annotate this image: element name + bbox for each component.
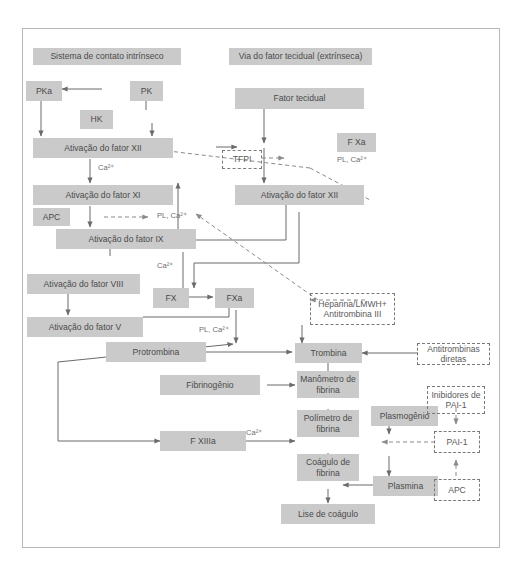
node-trombina: Trombina	[295, 343, 362, 363]
node-ativacao-fator-ix: Ativação do fator IX	[56, 229, 196, 249]
node-polimetro-de-fibrina-label: Polímetro de fibrina	[300, 413, 356, 434]
node-pka: PKa	[26, 81, 62, 101]
header-extrinsic-pathway: Via do fator tecidual (extrínseca)	[229, 48, 372, 65]
annotation-ca-ix-fxa: Ca²⁺	[157, 261, 173, 270]
node-fibrinogenio-label: Fibrinogênio	[186, 380, 233, 390]
node-fator-tecidual: Fator tecidual	[235, 88, 364, 109]
node-apc-left: APC	[33, 208, 70, 226]
node-fxa-label: FXa	[227, 293, 243, 303]
node-apc-right-label: APC	[448, 485, 466, 495]
node-pka-label: PKa	[36, 86, 52, 96]
node-pai-1: PAI-1	[434, 431, 480, 453]
node-ativacao-fator-v-label: Ativação do fator V	[49, 322, 122, 332]
node-f-xa: F Xa	[337, 133, 376, 152]
node-pk-label: PK	[141, 86, 152, 96]
annotation-ca-xiiia: Ca²⁺	[246, 428, 262, 437]
annotation-plca-fxa-right: PL, Ca²⁺	[337, 155, 367, 164]
node-heparina-antitrombina: Heparina/LMWH+ Antitrombina III	[310, 293, 395, 325]
header-intrinsic-label: Sistema de contato intrínseco	[50, 51, 163, 61]
annotation-ca-ix-fxa-label: Ca²⁺	[157, 261, 173, 270]
annotation-plca-xi-ix: PL, Ca²⁺	[157, 211, 187, 220]
annotation-plca-fxa-trombina-label: PL, Ca²⁺	[199, 325, 229, 334]
node-protrombina-label: Protrombina	[133, 347, 180, 357]
node-apc-left-label: APC	[43, 212, 61, 222]
node-lise-de-coagulo-label: Lise de coágulo	[298, 509, 358, 519]
node-ativacao-fator-xi-label: Ativação do fator XI	[66, 190, 141, 200]
annotation-ca-xiiia-label: Ca²⁺	[246, 428, 262, 437]
node-plasmina-label: Plasmina	[388, 481, 423, 491]
node-heparina-antitrombina-label: Heparina/LMWH+ Antitrombina III	[314, 299, 391, 320]
node-ativacao-fator-ix-label: Ativação do fator IX	[89, 234, 164, 244]
node-manometro-de-fibrina: Manômetro de fibrina	[297, 371, 359, 398]
node-ativacao-fator-xii-intrinseco-label: Ativação do fator XII	[64, 143, 141, 153]
node-inibidores-de-pai-1: Inibidores de PAI-1	[427, 386, 485, 414]
node-tfpi-label: TFPI	[233, 154, 252, 164]
node-f-xa-label: F Xa	[347, 137, 365, 147]
node-ativacao-fator-xi: Ativação do fator XI	[33, 185, 173, 205]
node-fator-tecidual-label: Fator tecidual	[273, 93, 325, 103]
node-hk: HK	[80, 110, 113, 129]
annotation-plca-fxa-trombina: PL, Ca²⁺	[199, 325, 229, 334]
node-manometro-de-fibrina-label: Manômetro de fibrina	[300, 374, 356, 395]
annotation-plca-fxa-right-label: PL, Ca²⁺	[337, 155, 367, 164]
node-inibidores-de-pai-1-label: Inibidores de PAI-1	[431, 390, 481, 411]
node-coagulo-de-fibrina: Coágulo de fibrina	[297, 454, 359, 481]
node-protrombina: Protrombina	[106, 342, 206, 362]
node-ativacao-fator-viii: Ativação do fator VIII	[27, 274, 140, 294]
header-extrinsic-label: Via do fator tecidual (extrínseca)	[239, 51, 363, 61]
node-ativacao-fator-xii-extrinseco: Ativação do fator XII	[235, 185, 364, 205]
node-fxa: FXa	[215, 288, 254, 308]
node-polimetro-de-fibrina: Polímetro de fibrina	[297, 410, 359, 437]
diagram-canvas: Sistema de contato intrínseco Via do fat…	[0, 0, 525, 570]
node-antitrombinas-diretas-label: Antitrombinas diretas	[421, 344, 486, 365]
node-hk-label: HK	[91, 114, 103, 124]
annotation-ca-xii-xi-label: Ca²⁺	[98, 163, 114, 172]
node-ativacao-fator-viii-label: Ativação do fator VIII	[44, 279, 124, 289]
node-apc-right: APC	[434, 479, 480, 501]
node-trombina-label: Trombina	[311, 348, 347, 358]
node-fx: FX	[153, 288, 189, 308]
node-f-xiiia-label: F XIIIa	[190, 436, 215, 446]
annotation-plca-xi-ix-label: PL, Ca²⁺	[157, 211, 187, 220]
node-f-xiiia: F XIIIa	[160, 431, 246, 451]
annotation-ca-xii-xi: Ca²⁺	[98, 163, 114, 172]
node-tfpi: TFPI	[222, 150, 262, 169]
node-ativacao-fator-v: Ativação do fator V	[27, 317, 143, 337]
node-ativacao-fator-xii-extrinseco-label: Ativação do fator XII	[261, 190, 338, 200]
node-antitrombinas-diretas: Antitrombinas diretas	[417, 343, 490, 365]
node-coagulo-de-fibrina-label: Coágulo de fibrina	[300, 457, 356, 478]
node-fibrinogenio: Fibrinogênio	[160, 375, 260, 395]
node-plasmina: Plasmina	[373, 476, 438, 496]
node-fx-label: FX	[166, 293, 177, 303]
node-pai-1-label: PAI-1	[447, 437, 468, 447]
node-plasmogenio-label: Plasmogênio	[380, 411, 430, 421]
node-pk: PK	[130, 81, 163, 101]
node-ativacao-fator-xii-intrinseco: Ativação do fator XII	[33, 138, 173, 158]
node-lise-de-coagulo: Lise de coágulo	[281, 504, 375, 524]
header-intrinsic-pathway: Sistema de contato intrínseco	[33, 48, 181, 65]
